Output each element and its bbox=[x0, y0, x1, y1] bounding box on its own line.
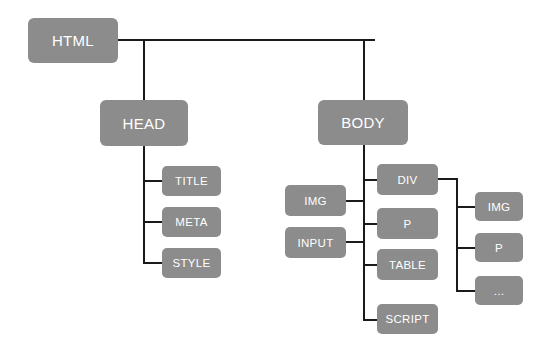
node-body: BODY bbox=[318, 100, 408, 145]
connector-head-meta bbox=[143, 221, 163, 223]
connector-html-main bbox=[118, 39, 375, 41]
connector-head-title bbox=[143, 180, 163, 182]
node-div-more: ... bbox=[475, 276, 523, 305]
node-div: DIV bbox=[377, 164, 438, 195]
connector-body-img bbox=[346, 200, 364, 202]
node-table: TABLE bbox=[377, 249, 438, 280]
connector-head-trunk bbox=[143, 146, 145, 264]
node-style: STYLE bbox=[162, 248, 221, 278]
connector-head-style bbox=[143, 262, 163, 264]
connector-html-body bbox=[363, 39, 365, 100]
connector-div-p bbox=[456, 247, 476, 249]
connector-div-more bbox=[456, 290, 476, 292]
node-script: SCRIPT bbox=[377, 304, 438, 334]
node-title: TITLE bbox=[162, 166, 221, 196]
connector-body-input bbox=[346, 241, 364, 243]
node-div-p: P bbox=[475, 233, 523, 262]
node-meta: META bbox=[162, 207, 221, 237]
node-html: HTML bbox=[28, 18, 118, 63]
node-head: HEAD bbox=[100, 100, 188, 146]
node-p: P bbox=[377, 208, 438, 239]
connector-body-script bbox=[363, 319, 378, 321]
node-img: IMG bbox=[285, 185, 346, 216]
node-div-img: IMG bbox=[475, 192, 523, 221]
connector-body-trunk bbox=[363, 145, 365, 320]
connector-body-table bbox=[363, 264, 378, 266]
node-input: INPUT bbox=[285, 227, 346, 258]
connector-div-img bbox=[456, 206, 476, 208]
connector-html-head bbox=[143, 39, 145, 100]
connector-body-div bbox=[363, 179, 378, 181]
connector-body-p bbox=[363, 223, 378, 225]
connector-div-out bbox=[438, 178, 458, 180]
connector-div-trunk bbox=[456, 178, 458, 291]
